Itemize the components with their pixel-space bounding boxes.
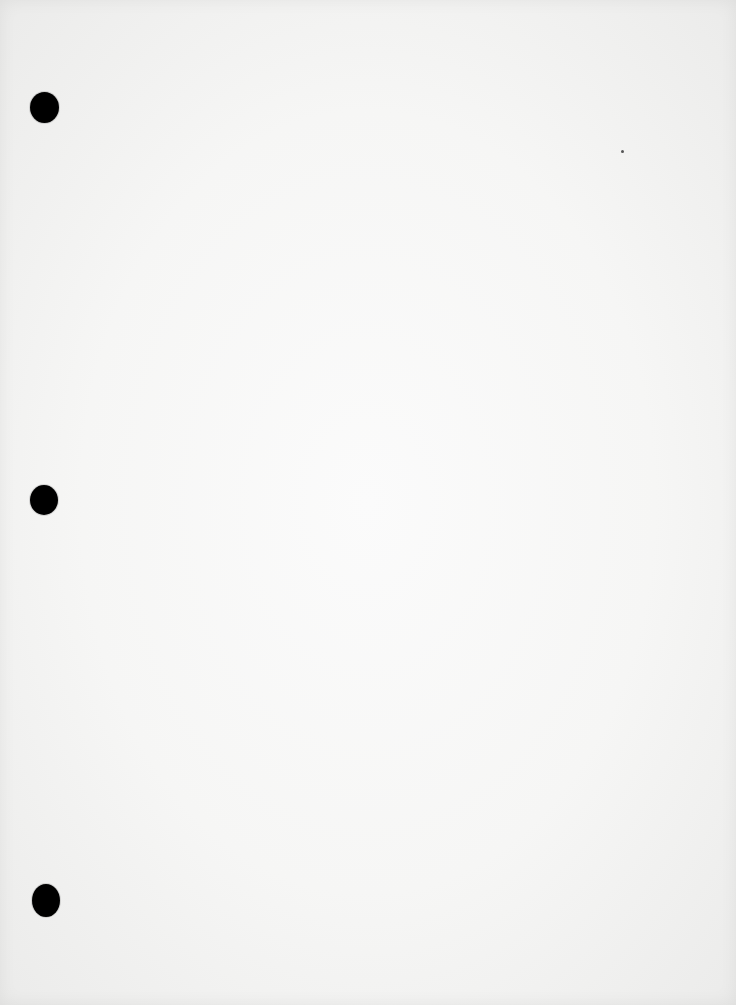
- punch-hole-middle: [30, 485, 58, 515]
- punch-hole-bottom: [32, 884, 60, 917]
- paper-speck: [621, 150, 624, 153]
- blank-page: [0, 0, 736, 1005]
- punch-hole-top: [30, 92, 59, 123]
